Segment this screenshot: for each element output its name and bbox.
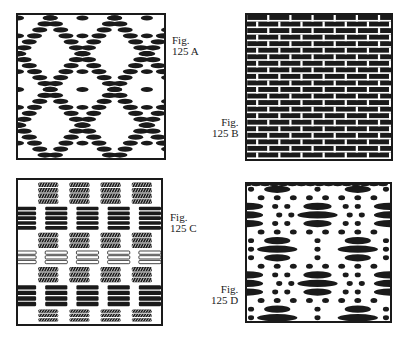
figure-125c-panel xyxy=(16,178,163,326)
weave-pattern-b-graphic xyxy=(247,15,391,159)
figure-125b-caption: Fig. 125 B xyxy=(212,117,239,139)
figure-125b-panel xyxy=(245,13,393,161)
figure-125c-caption: Fig. 125 C xyxy=(170,212,197,234)
figure-125d-caption: Fig. 125 D xyxy=(211,284,238,306)
caption-fig-number: 125 D xyxy=(211,295,238,306)
weave-pattern-a-graphic xyxy=(18,15,164,158)
weave-pattern-d-graphic xyxy=(247,184,390,321)
figure-125a-panel xyxy=(16,13,166,160)
caption-fig-number: 125 B xyxy=(212,128,239,139)
weave-pattern-c-graphic xyxy=(18,180,161,324)
caption-fig-number: 125 C xyxy=(170,223,197,234)
figure-125a-caption: Fig. 125 A xyxy=(172,35,199,57)
figure-125d-panel xyxy=(245,182,392,323)
caption-fig-number: 125 A xyxy=(172,46,199,57)
